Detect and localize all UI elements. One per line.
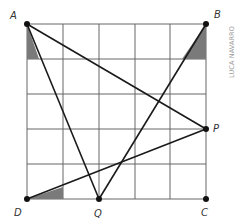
label-b: B (214, 9, 221, 20)
point-p (203, 126, 209, 132)
point-c (203, 196, 209, 202)
photo-credit: LUCA NAVARRO (228, 26, 236, 78)
segment-ap (27, 24, 206, 129)
point-q (96, 196, 102, 202)
label-a: A (10, 10, 17, 21)
segment-bq (99, 24, 206, 199)
point-a (24, 21, 30, 27)
label-d: D (14, 207, 22, 218)
segments (27, 24, 206, 199)
shaded-angles (27, 24, 206, 199)
label-q: Q (94, 208, 102, 219)
grid (27, 24, 206, 199)
point-d (24, 196, 30, 202)
label-c: C (201, 207, 208, 218)
point-b (203, 21, 209, 27)
points (24, 21, 209, 202)
label-p: P (213, 123, 219, 134)
geometry-figure (0, 0, 251, 224)
